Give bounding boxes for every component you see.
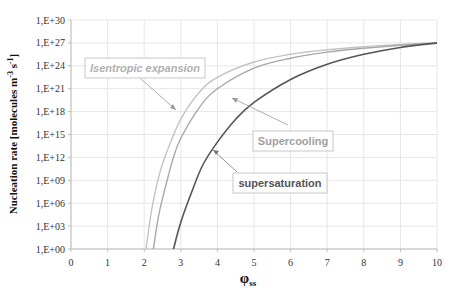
- y-tick-label: 1,E+12: [36, 152, 65, 163]
- x-tick-label: 10: [432, 257, 442, 268]
- y-tick-label: 1,E+24: [36, 60, 65, 71]
- x-tick-label: 5: [252, 257, 257, 268]
- x-tick-label: 2: [142, 257, 147, 268]
- svg-text:supersaturation: supersaturation: [238, 177, 321, 189]
- x-tick-label: 0: [69, 257, 74, 268]
- y-tick-label: 1,E+21: [36, 83, 65, 94]
- x-tick-label: 6: [288, 257, 293, 268]
- x-axis-ticks: 012345678910: [69, 249, 443, 268]
- x-tick-label: 4: [215, 257, 220, 268]
- nucleation-rate-chart: 1,E+001,E+031,E+061,E+091,E+121,E+151,E+…: [0, 0, 455, 300]
- y-axis-ticks: 1,E+001,E+031,E+061,E+091,E+121,E+151,E+…: [36, 15, 71, 255]
- x-tick-label: 9: [398, 257, 403, 268]
- svg-text:Isentropic expansion: Isentropic expansion: [90, 62, 200, 74]
- y-tick-label: 1,E+03: [36, 221, 65, 232]
- x-axis-label: φss: [240, 270, 257, 288]
- annotation-supercooling: Supercooling: [253, 131, 333, 151]
- y-tick-label: 1,E+27: [36, 37, 65, 48]
- x-tick-label: 3: [178, 257, 183, 268]
- x-tick-label: 1: [105, 257, 110, 268]
- x-tick-label: 8: [361, 257, 366, 268]
- y-tick-label: 1,E+30: [36, 15, 65, 26]
- y-tick-label: 1,E+18: [36, 106, 65, 117]
- x-tick-label: 7: [325, 257, 330, 268]
- y-tick-label: 1,E+00: [36, 244, 65, 255]
- annotation-supersaturation: supersaturation: [233, 173, 327, 193]
- svg-text:Supercooling: Supercooling: [258, 135, 328, 147]
- annotation-isentropic-expansion: Isentropic expansion: [85, 58, 205, 78]
- y-axis-label: Nucleation rate [molecules m-3 s-1]: [6, 54, 19, 215]
- y-tick-label: 1,E+09: [36, 175, 65, 186]
- y-tick-label: 1,E+15: [36, 129, 65, 140]
- y-tick-label: 1,E+06: [36, 198, 65, 209]
